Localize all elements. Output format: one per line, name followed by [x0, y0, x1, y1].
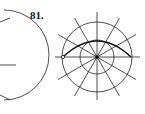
pole-point — [95, 55, 99, 59]
open-point — [61, 55, 64, 58]
previous-figure-arc — [4, 10, 49, 100]
polar-graph — [0, 0, 145, 114]
